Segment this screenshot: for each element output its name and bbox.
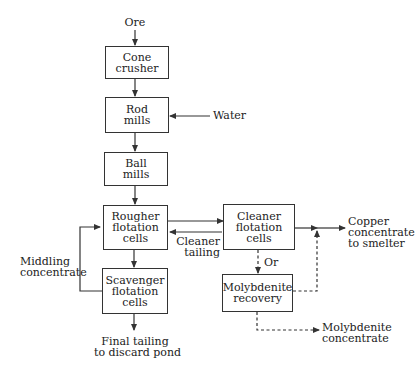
flow-connectors [0, 0, 420, 372]
node-cone-crusher-label: Cone crusher [115, 52, 158, 74]
label-final-tailing: Final tailing to discard pond [94, 336, 176, 358]
node-rougher-label: Rougher flotation cells [112, 211, 160, 244]
node-rougher-flotation: Rougher flotation cells [103, 205, 168, 250]
edge-moly-to-copper [293, 231, 317, 291]
node-scavenger-flotation: Scavenger flotation cells [102, 268, 168, 314]
input-water-label: Water [213, 110, 246, 121]
label-or: Or [264, 257, 278, 268]
input-ore-label: Ore [122, 17, 148, 28]
node-cleaner-flotation: Cleaner flotation cells [223, 204, 295, 250]
node-rod-mills-label: Rod mills [124, 104, 151, 126]
node-cleaner-label: Cleaner flotation cells [236, 211, 283, 244]
label-cleaner-tailing: Cleaner tailing [172, 236, 220, 258]
label-molybdenite-concentrate: Molybdenite concentrate [322, 322, 392, 344]
node-rod-mills: Rod mills [105, 97, 169, 133]
node-cone-crusher: Cone crusher [105, 46, 169, 79]
label-copper-concentrate: Copper concentrate to smelter [348, 216, 415, 249]
node-ball-mills: Ball mills [104, 152, 168, 186]
node-moly-label: Molybdenite recovery [223, 282, 293, 304]
node-scavenger-label: Scavenger flotation cells [106, 275, 165, 308]
node-ball-mills-label: Ball mills [123, 158, 150, 180]
edge-moly-to-moly-concentrate [257, 312, 319, 330]
label-middling-concentrate: Middling concentrate [20, 256, 87, 278]
node-molybdenite-recovery: Molybdenite recovery [222, 274, 293, 312]
